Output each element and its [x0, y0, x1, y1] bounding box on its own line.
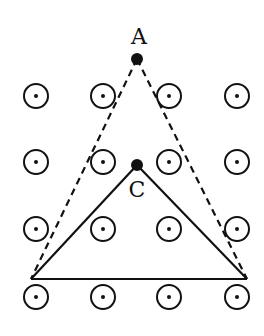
point-c [131, 159, 143, 171]
field-out-of-page-icon [24, 84, 48, 108]
field-out-of-page-icon [24, 217, 48, 241]
field-out-of-page-icon [91, 217, 115, 241]
field-out-of-page-icon [225, 84, 249, 108]
label-c: C [129, 177, 146, 202]
field-out-of-page-icon [225, 285, 249, 309]
solid-line-c-right [137, 165, 247, 279]
field-out-of-page-icon [157, 217, 181, 241]
field-out-of-page-icon [225, 217, 249, 241]
field-out-of-page-icon [24, 285, 48, 309]
field-out-of-page-icon [91, 285, 115, 309]
diagram-canvas: A C [0, 0, 264, 336]
field-out-of-page-icon [157, 150, 181, 174]
field-out-of-page-icon [24, 150, 48, 174]
field-out-of-page-icon [91, 84, 115, 108]
field-out-of-page-icon [91, 150, 115, 174]
dashed-line-a-right [137, 59, 247, 279]
label-a: A [130, 24, 148, 49]
diagram-svg: A C [0, 0, 264, 336]
field-out-of-page-icon [225, 150, 249, 174]
point-a [131, 53, 143, 65]
field-out-of-page-icon [157, 285, 181, 309]
